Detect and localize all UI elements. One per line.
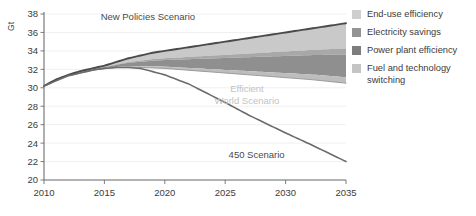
annotation-line: World Scenario	[215, 95, 280, 106]
legend-item[interactable]: End-use efficiency	[352, 9, 476, 21]
y-tick-label: 36	[27, 27, 38, 38]
annotation-efficient: EfficientWorld Scenario	[215, 83, 280, 106]
x-tick-label: 2020	[154, 187, 175, 198]
legend-item[interactable]: Electricity savings	[352, 27, 476, 39]
legend-item[interactable]: Power plant efficiency	[352, 45, 476, 57]
y-axis-unit-label: Gt	[6, 21, 16, 31]
legend-swatch-icon	[352, 28, 361, 37]
y-tick-label: 34	[27, 45, 38, 56]
line-450-scenario	[44, 67, 346, 161]
y-tick-label: 32	[27, 64, 38, 75]
legend-item-label: Fuel and technology switching	[367, 63, 451, 86]
annotation-450-scenario: 450 Scenario	[229, 149, 285, 160]
x-tick-label: 2015	[94, 187, 115, 198]
annotation-new-policies-scenario: New Policies Scenario	[101, 11, 196, 22]
y-tick-label: 38	[27, 8, 38, 19]
legend-item[interactable]: Fuel and technology switching	[352, 63, 476, 86]
y-tick-label: 26	[27, 119, 38, 130]
legend-swatch-icon	[352, 64, 361, 73]
annotation-line: New Policies Scenario	[101, 11, 196, 22]
legend-swatch-icon	[352, 10, 361, 19]
chart-legend: End-use efficiencyElectricity savingsPow…	[352, 9, 476, 93]
annotation-line: Efficient	[230, 83, 264, 94]
x-axis-ticks: 201020152020202520302035	[33, 180, 356, 198]
y-tick-label: 28	[27, 101, 38, 112]
y-tick-label: 24	[27, 138, 38, 149]
y-tick-label: 30	[27, 82, 38, 93]
emissions-scenario-chart: 20222426283032343638 2010201520202025203…	[0, 0, 476, 216]
legend-item-label: Power plant efficiency	[367, 45, 457, 57]
x-tick-label: 2010	[33, 187, 54, 198]
x-tick-label: 2025	[215, 187, 236, 198]
y-tick-label: 20	[27, 174, 38, 185]
annotation-line: 450 Scenario	[229, 149, 285, 160]
x-tick-label: 2035	[335, 187, 356, 198]
x-tick-label: 2030	[275, 187, 296, 198]
y-tick-label: 22	[27, 156, 38, 167]
legend-item-label: End-use efficiency	[367, 9, 443, 21]
legend-swatch-icon	[352, 46, 361, 55]
y-axis-ticks: 20222426283032343638	[27, 8, 44, 185]
legend-item-label: Electricity savings	[367, 27, 441, 39]
